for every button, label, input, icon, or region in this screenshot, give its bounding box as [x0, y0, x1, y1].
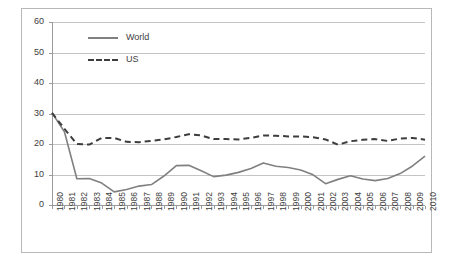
- line-chart: 6050403020100 19801981198219831984198519…: [0, 0, 454, 262]
- series-line-world: [52, 113, 425, 192]
- series-lines: [0, 0, 454, 262]
- legend-label-world: World: [126, 33, 149, 42]
- legend-swatch-world: [88, 37, 118, 39]
- legend-swatch-us: [88, 59, 118, 61]
- legend-label-us: US: [126, 55, 139, 64]
- series-line-us: [52, 113, 425, 145]
